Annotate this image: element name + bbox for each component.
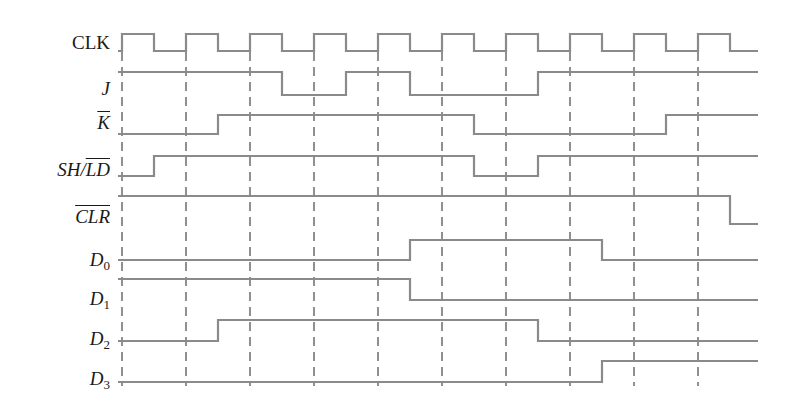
label-d1-text: D: [90, 288, 104, 309]
label-d0-sub: 0: [104, 258, 111, 273]
label-clr-bar-text: CLR: [75, 206, 110, 227]
label-d3-text: D: [90, 368, 104, 389]
label-clk: CLK: [0, 33, 110, 52]
label-d0: D0: [0, 250, 110, 272]
waveform-clk: [118, 34, 758, 51]
label-sh-ld-bar: SH/LD: [0, 160, 110, 179]
waveform-d1: [118, 279, 758, 300]
clock-edge-guides: [122, 52, 698, 386]
waveform-d2: [118, 320, 758, 341]
waveform-k-bar: [118, 115, 758, 134]
label-j-text: J: [102, 78, 110, 99]
label-d2-sub: 2: [104, 337, 111, 352]
label-d2-text: D: [90, 328, 104, 349]
label-k-bar-text: K: [97, 112, 110, 133]
waveform-d3: [118, 361, 758, 382]
label-j: J: [0, 79, 110, 98]
label-k-bar: K: [0, 113, 110, 132]
label-d1-sub: 1: [104, 297, 111, 312]
waveform-canvas: [0, 0, 785, 416]
label-clr-bar: CLR: [0, 207, 110, 226]
label-d3: D3: [0, 369, 110, 391]
label-d1: D1: [0, 289, 110, 311]
label-clk-text: CLK: [72, 32, 110, 53]
waveform-clr-bar: [118, 196, 758, 224]
label-ld-bar-text: LD: [86, 159, 110, 180]
waveform-j: [118, 72, 758, 95]
label-sh-text: SH/: [57, 159, 86, 180]
label-d2: D2: [0, 329, 110, 351]
timing-diagram: CLK J K SH/LD CLR D0 D1 D2 D3: [0, 0, 785, 416]
label-d3-sub: 3: [104, 377, 111, 392]
signal-waveforms: [118, 34, 758, 382]
waveform-sh-ld-bar: [118, 156, 758, 176]
waveform-d0: [118, 240, 758, 260]
label-d0-text: D: [90, 249, 104, 270]
